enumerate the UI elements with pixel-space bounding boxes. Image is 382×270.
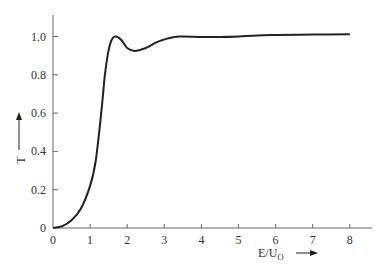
y-tick-label: 0.4 [31, 144, 46, 158]
x-tick-label: 1 [87, 233, 93, 247]
x-axis-title: E/U [258, 246, 278, 260]
y-tick-label: 0.8 [31, 68, 46, 82]
x-arrowhead-icon [310, 250, 318, 256]
y-tick-label: 0.6 [31, 106, 46, 120]
x-tick-label: 6 [273, 233, 279, 247]
x-tick-label: 8 [347, 233, 353, 247]
x-axis-subscript: O [277, 252, 284, 262]
x-tick-label: 5 [236, 233, 242, 247]
x-tick-label: 7 [310, 233, 316, 247]
y-tick-label: 1.0 [31, 30, 46, 44]
x-ticks: 012345678 [50, 224, 353, 247]
chart: 012345678 00.20.40.60.81.0 T E/UO [0, 0, 382, 270]
y-tick-label: 0 [40, 221, 46, 235]
x-tick-label: 2 [124, 233, 130, 247]
x-tick-label: 0 [50, 233, 56, 247]
y-axis-label: T [14, 112, 28, 164]
y-tick-label: 0.2 [31, 183, 46, 197]
transmission-curve [53, 34, 350, 228]
y-ticks: 00.20.40.60.81.0 [31, 30, 58, 236]
y-arrowhead-icon [16, 112, 22, 120]
x-tick-label: 3 [161, 233, 167, 247]
x-tick-label: 4 [198, 233, 204, 247]
x-axis-label: E/UO [258, 246, 318, 262]
y-axis-title: T [14, 156, 28, 164]
svg-text:E/UO: E/UO [258, 246, 284, 262]
